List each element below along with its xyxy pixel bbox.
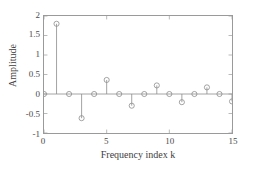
figure-canvas: 21.510.50-0.5-1 Amplitude 051015 Frequen… xyxy=(0,0,257,169)
y-axis-tick-label: 0 xyxy=(36,90,41,99)
y-axis-tick-label: 1 xyxy=(36,50,41,59)
axis-tick-marks xyxy=(44,16,232,133)
x-axis-tick-label: 5 xyxy=(104,137,109,146)
data-point-markers xyxy=(44,21,232,120)
x-axis-tick-label: 10 xyxy=(165,137,174,146)
x-axis-tick-label: 0 xyxy=(41,137,46,146)
y-axis-tick-label: 0.5 xyxy=(29,70,40,79)
stem-lines xyxy=(57,24,232,118)
x-axis-title: Frequency index k xyxy=(43,149,233,160)
y-axis-tick-label: 1.5 xyxy=(29,30,40,39)
y-axis-tick-label: 2 xyxy=(36,11,41,20)
plot-area xyxy=(43,15,233,134)
x-axis-tick-labels: 051015 xyxy=(0,137,257,149)
stem-plot-svg xyxy=(44,16,232,133)
y-axis-tick-label: -0.5 xyxy=(26,110,40,119)
x-axis-tick-label: 15 xyxy=(229,137,238,146)
y-axis-title: Amplitude xyxy=(7,31,18,101)
